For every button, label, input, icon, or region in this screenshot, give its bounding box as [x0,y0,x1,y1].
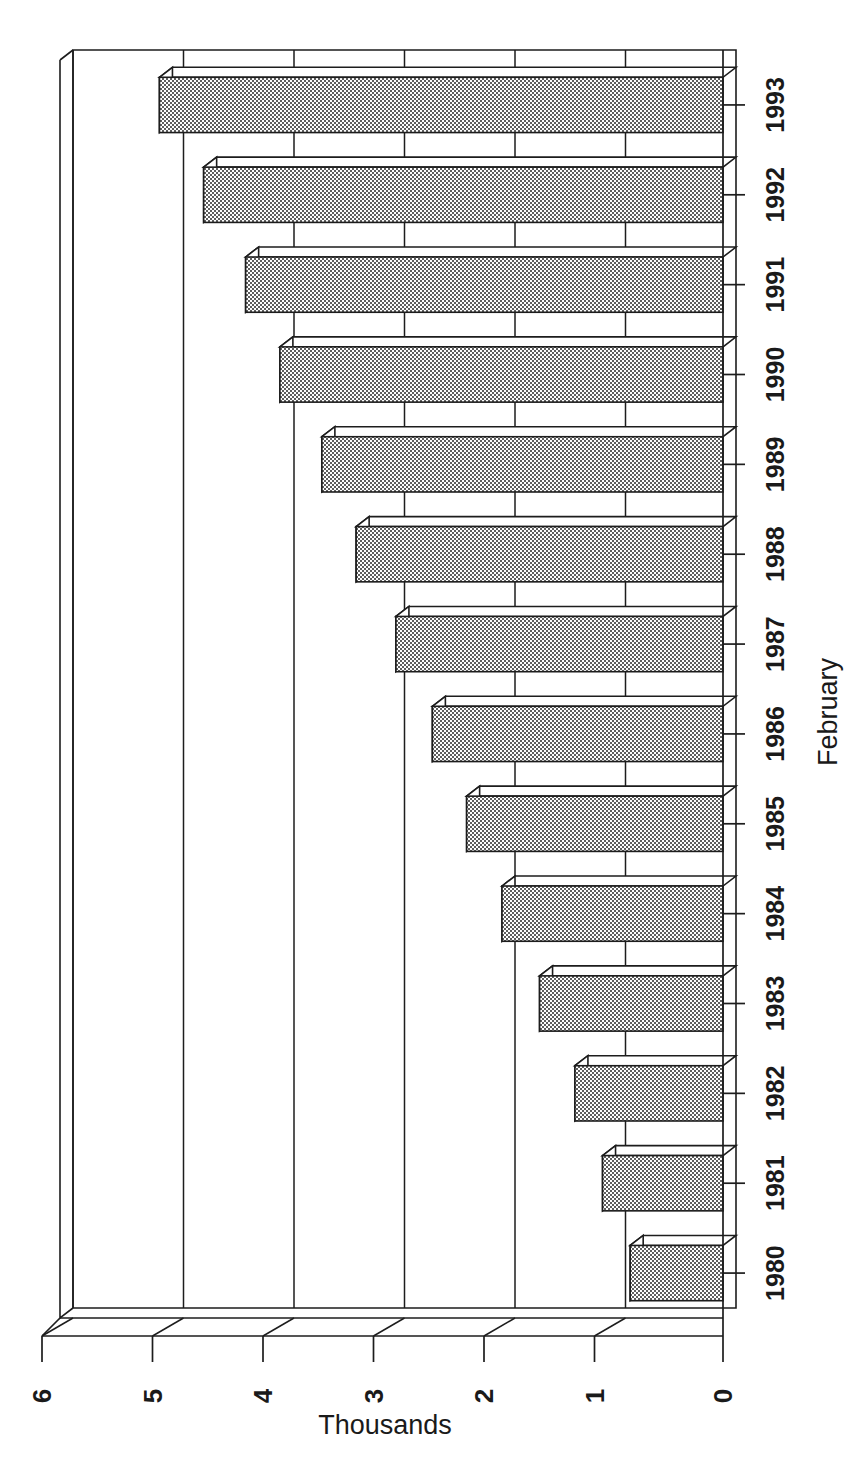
bar-front-face [246,257,723,312]
category-label-1984: 1984 [761,886,789,942]
bar-top-face [502,876,736,886]
bar-top-face [630,1235,736,1245]
bar-front-face [575,1066,723,1121]
bar-front-face [630,1245,723,1300]
category-label-1990: 1990 [761,347,789,403]
value-label-1: 1 [580,1389,610,1403]
bar-1986 [432,696,736,761]
bar-group [159,67,736,1300]
bar-1989 [322,427,736,492]
bar-top-face [396,606,736,616]
floor-connector-1 [595,1318,626,1336]
bar-top-face [204,157,736,167]
bar-top-face [540,966,736,976]
value-label-6: 6 [27,1389,57,1403]
bar-1982 [575,1056,736,1121]
bar-top-face [322,427,736,437]
bar-front-face [603,1156,723,1211]
bar-top-face [159,67,736,77]
bar-top-face [280,337,736,347]
bar-top-face [467,786,736,796]
value-label-4: 4 [248,1388,278,1403]
bar-front-face [280,347,723,402]
category-axis-title: February [813,657,843,766]
bar-1984 [502,876,736,941]
bar-1992 [204,157,736,222]
bar-front-face [322,437,723,492]
plot-frame [60,50,736,1318]
bar-top-face [575,1056,736,1066]
value-axis-title: Thousands [318,1410,452,1440]
left-wall [60,50,73,1318]
bar-front-face [204,167,723,222]
bar-front-face [540,976,723,1031]
value-label-2: 2 [469,1389,499,1403]
bar-front-face [396,616,723,671]
bar-1990 [280,337,736,402]
bar-1993 [159,67,736,132]
category-label-1980: 1980 [761,1245,789,1301]
gridlines [73,50,626,1308]
category-label-1986: 1986 [761,706,789,762]
floor-connector-5 [153,1318,184,1336]
bar-1981 [603,1146,736,1211]
bar-front-face [159,77,723,132]
bar-top-face [432,696,736,706]
bar-1987 [396,606,736,671]
value-tick-labels: 0123456 [27,1388,738,1403]
category-label-1992: 1992 [761,167,789,223]
category-label-1993: 1993 [761,77,789,133]
bar-front-face [467,796,723,851]
bar-1991 [246,247,736,312]
bar-1983 [540,966,736,1031]
category-label-1985: 1985 [761,796,789,852]
category-label-1983: 1983 [761,976,789,1032]
value-label-3: 3 [359,1389,389,1403]
category-tick-labels: 1980198119821983198419851986198719881989… [761,77,789,1301]
floor-connector-3 [374,1318,405,1336]
floor-connector-2 [484,1318,515,1336]
bar-1985 [467,786,736,851]
category-label-1989: 1989 [761,437,789,493]
bar-front-face [356,527,723,582]
chart-container: 1980198119821983198419851986198719881989… [0,0,860,1461]
category-label-1981: 1981 [761,1155,789,1211]
axis-floor [42,50,723,1336]
bar-front-face [432,706,723,761]
category-label-1991: 1991 [761,257,789,313]
category-label-1987: 1987 [761,616,789,672]
category-label-1982: 1982 [761,1066,789,1122]
category-label-1988: 1988 [761,526,789,582]
bar-top-face [603,1146,736,1156]
bar-front-face [502,886,723,941]
bar-top-face [356,517,736,527]
floor-connector-4 [263,1318,294,1336]
bar-1980 [630,1235,736,1300]
bar-top-face [246,247,736,257]
bar-1988 [356,517,736,582]
value-label-0: 0 [708,1389,738,1403]
bar-chart: 1980198119821983198419851986198719881989… [0,0,860,1461]
value-label-5: 5 [138,1389,168,1403]
